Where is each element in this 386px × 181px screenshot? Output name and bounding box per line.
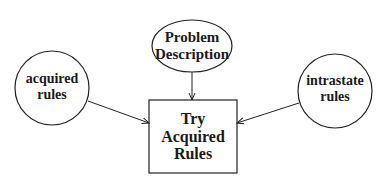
acquired-line1: acquired (26, 71, 79, 87)
try-line2: Acquired (161, 128, 225, 146)
arrow-acquired-to-try (88, 101, 149, 123)
intrastate-rules-label: intrastate rules (296, 64, 374, 114)
try-line3: Rules (161, 145, 225, 163)
problem-line2: Description (155, 46, 229, 63)
try-line1: Try (161, 110, 225, 128)
problem-line1: Problem (155, 29, 229, 46)
intrastate-line2: rules (306, 89, 364, 105)
acquired-rules-label: acquired rules (15, 62, 89, 112)
intrastate-line1: intrastate (306, 73, 364, 89)
problem-description-label: Problem Description (152, 22, 232, 70)
try-acquired-rules-label: Try Acquired Rules (149, 101, 237, 172)
acquired-line2: rules (26, 87, 79, 103)
arrow-intrastate-to-try (237, 103, 299, 123)
